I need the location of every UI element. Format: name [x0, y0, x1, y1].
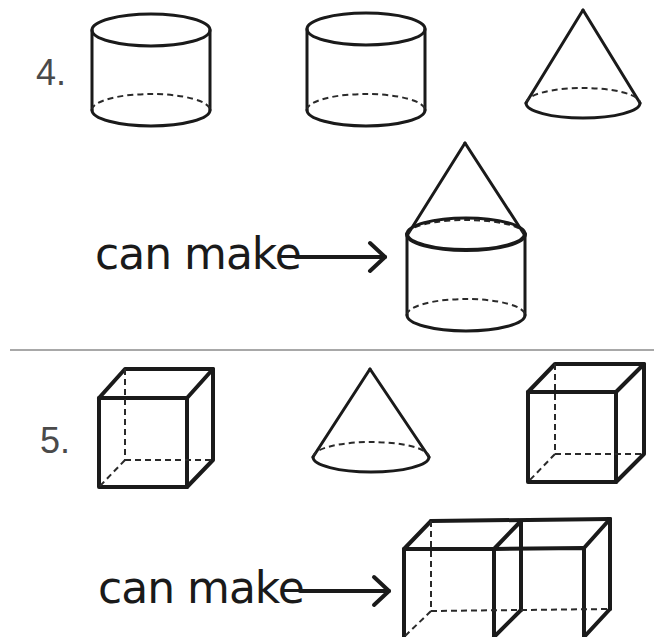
two-cubes-joined-result	[0, 0, 654, 637]
